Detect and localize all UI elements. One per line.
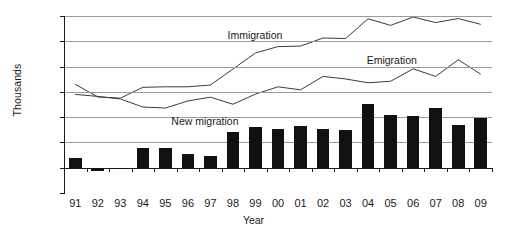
gridline-200 [64, 117, 492, 118]
bar-01 [294, 126, 307, 167]
x-tick-mark-05 [402, 168, 403, 172]
y-tick-mark-200 [60, 117, 65, 118]
x-tick-mark-02 [334, 168, 335, 172]
x-tick-mark-04 [379, 168, 380, 172]
bar-04 [362, 104, 375, 168]
y-tick-mark--100 [60, 193, 65, 194]
x-tick-mark-06 [424, 168, 425, 172]
bar-05 [384, 115, 397, 168]
x-tick-mark-98 [244, 168, 245, 172]
x-tick-mark-00 [289, 168, 290, 172]
x-tick-mark-97 [222, 168, 223, 172]
x-tick-mark-01 [312, 168, 313, 172]
x-tick-mark-07 [447, 168, 448, 172]
bar-00 [272, 129, 285, 168]
y-tick-mark-400 [60, 67, 65, 68]
y-tick-mark-500 [60, 41, 65, 42]
plot-area: -100010020030040050060091929394959697989… [64, 16, 492, 193]
x-tick-label-09: 09 [466, 197, 496, 209]
bar-09 [474, 118, 487, 168]
y-tick-mark-600 [60, 16, 65, 17]
bar-03 [339, 130, 352, 167]
gridline-600 [64, 16, 492, 17]
y-axis-title: Thousands [11, 40, 23, 140]
x-tick-mark-03 [357, 168, 358, 172]
bar-98 [227, 132, 240, 167]
x-tick-mark-91 [87, 168, 88, 172]
bar-02 [317, 129, 330, 167]
bar-99 [249, 127, 262, 167]
bar-95 [159, 148, 172, 167]
x-axis-title: Year [0, 214, 507, 226]
bar-92 [91, 168, 104, 172]
gridline-400 [64, 67, 492, 68]
bar-91 [69, 158, 82, 168]
bar-96 [182, 154, 195, 168]
bar-07 [429, 108, 442, 168]
annotation-new-migration: New migration [171, 115, 238, 127]
x-axis-line [64, 168, 492, 169]
y-tick-mark-100 [60, 142, 65, 143]
bar-08 [452, 125, 465, 168]
x-tick-mark-96 [199, 168, 200, 172]
x-tick-mark-94 [154, 168, 155, 172]
migration-chart: Thousands Year -100010020030040050060091… [0, 0, 507, 238]
x-tick-mark-95 [177, 168, 178, 172]
annotation-immigration: Immigration [227, 29, 282, 41]
gridline-300 [64, 92, 492, 93]
bar-93 [114, 168, 127, 169]
x-tick-mark-09 [492, 168, 493, 172]
bar-94 [137, 148, 150, 167]
annotation-emigration: Emigration [367, 54, 417, 66]
gridline-500 [64, 41, 492, 42]
x-tick-mark-93 [132, 168, 133, 172]
x-tick-mark-99 [267, 168, 268, 172]
x-tick-mark-08 [469, 168, 470, 172]
bar-97 [204, 156, 217, 168]
bar-06 [407, 116, 420, 168]
y-tick-mark-300 [60, 92, 65, 93]
x-tick-mark-92 [109, 168, 110, 172]
